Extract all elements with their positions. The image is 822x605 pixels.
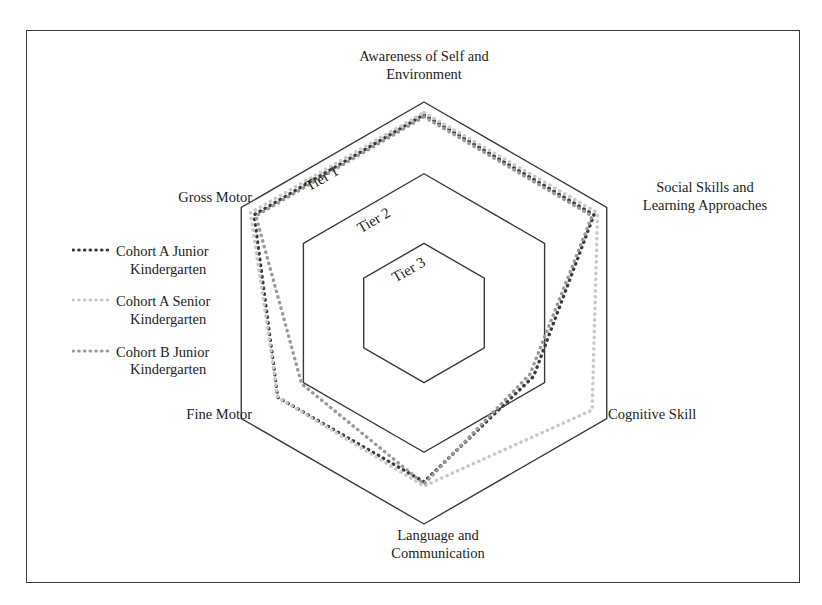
axis-label-line-2: Communication	[391, 545, 484, 561]
legend-item: Cohort A Senior Kindergarten	[72, 293, 272, 328]
series-line-3	[256, 117, 592, 484]
legend-label-line-1: Cohort A Senior	[116, 293, 210, 309]
legend-item: Cohort B Junior Kindergarten	[72, 344, 272, 379]
axis-label-gross-motor: Gross Motor	[66, 189, 252, 207]
legend-label-line-2: Kindergarten	[116, 311, 210, 329]
tier-rings	[241, 102, 606, 524]
legend-label-line-1: Cohort A Junior	[116, 243, 209, 259]
tier-1-label: Tier 1	[302, 162, 341, 194]
tier-ring-2	[303, 174, 544, 453]
axis-label-cognitive-skill: Cognitive Skill	[608, 406, 798, 424]
axis-label-awareness-of-self-and-environment: Awareness of Self and Environment	[324, 48, 524, 83]
axis-label-line-1: Fine Motor	[186, 406, 252, 422]
axis-label-line-2: Environment	[386, 66, 462, 82]
legend-dotted-line-icon	[72, 346, 112, 362]
data-series	[250, 113, 597, 486]
series-line-1	[254, 115, 594, 482]
legend-item-label: Cohort A Senior Kindergarten	[112, 293, 210, 328]
axis-label-line-1: Language and	[397, 527, 479, 543]
tier-2-label: Tier 2	[354, 204, 393, 236]
axis-label-fine-motor: Fine Motor	[74, 406, 252, 424]
series-line-2	[250, 113, 597, 486]
tier-3-label: Tier 3	[389, 254, 428, 286]
legend-dotted-line-icon	[72, 245, 112, 261]
axis-label-line-1: Cognitive Skill	[608, 406, 696, 422]
axis-label-social-skills-and-learning-approaches: Social Skills and Learning Approaches	[610, 179, 800, 214]
axis-label-line-1: Gross Motor	[178, 189, 252, 205]
legend-label-line-1: Cohort B Junior	[116, 344, 209, 360]
axis-label-language-and-communication: Language and Communication	[338, 527, 538, 562]
tier-ring-1	[241, 102, 606, 524]
axis-label-line-2: Learning Approaches	[643, 197, 767, 213]
legend-item: Cohort A Junior Kindergarten	[72, 243, 272, 278]
legend-item-label: Cohort B Junior Kindergarten	[112, 344, 209, 379]
legend-label-line-2: Kindergarten	[116, 361, 209, 379]
radar-chart-figure: Tier 1 Tier 2 Tier 3 Awareness of Self a…	[0, 0, 822, 605]
axis-label-line-1: Social Skills and	[656, 179, 753, 195]
axis-label-line-1: Awareness of Self and	[359, 48, 489, 64]
legend: Cohort A Junior Kindergarten Cohort A Se…	[72, 243, 272, 394]
legend-label-line-2: Kindergarten	[116, 261, 209, 279]
legend-item-label: Cohort A Junior Kindergarten	[112, 243, 209, 278]
legend-dotted-line-icon	[72, 295, 112, 311]
